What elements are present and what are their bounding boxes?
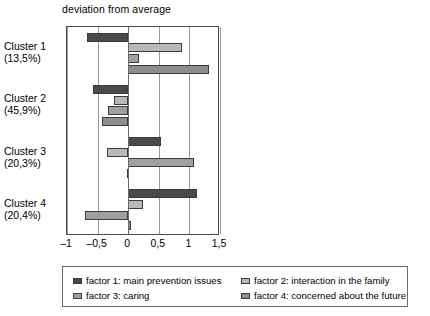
category-label: Cluster 1(13,5%) [4,40,46,64]
category-label-share: (45,9%) [4,104,46,116]
category-label-name: Cluster 2 [4,92,46,104]
chart-root: deviation from average Cluster 1(13,5%)C… [0,0,430,316]
category-label-name: Cluster 3 [4,145,46,157]
legend-item: factor 4: concerned about the future [241,290,406,301]
category-label-name: Cluster 1 [4,40,46,52]
legend-label: factor 4: concerned about the future [254,290,406,301]
bar [128,189,197,198]
legend-label: factor 3: caring [86,290,149,301]
legend-swatch-icon [241,293,250,299]
bar [128,65,209,74]
category-label-share: (20,3%) [4,157,46,169]
chart-title: deviation from average [62,3,171,15]
bar [107,148,128,157]
legend-item: factor 3: caring [73,290,149,301]
category-label: Cluster 2(45,9%) [4,92,46,116]
bar [128,200,143,209]
x-tick-label: 1 [185,237,191,249]
x-tick-label: –1 [60,237,72,249]
gridline [220,27,221,234]
legend-swatch-icon [73,293,82,299]
bar [108,106,128,115]
category-label-name: Cluster 4 [4,197,46,209]
x-tick-label: –0,5 [86,237,106,249]
category-label-share: (13,5%) [4,52,46,64]
x-tick-label: 0,5 [150,237,165,249]
legend-label: factor 2: interaction in the family [254,275,389,286]
bar [128,158,194,167]
zero-axis-line [128,27,129,234]
plot-area [66,26,219,235]
category-label: Cluster 4(20,4%) [4,197,46,221]
x-tick-label: 1,5 [212,237,227,249]
legend-item: factor 2: interaction in the family [241,275,389,286]
category-label-share: (20,4%) [4,209,46,221]
bar [93,85,128,94]
bar [85,211,128,220]
bar-group [67,27,218,234]
bar [128,137,160,146]
x-tick-label: 0 [124,237,130,249]
legend-box: factor 1: main prevention issuesfactor 2… [62,266,408,307]
legend-swatch-icon [241,278,250,284]
bar [114,96,129,105]
legend-item: factor 1: main prevention issues [73,275,221,286]
category-label: Cluster 3(20,3%) [4,145,46,169]
bar [128,54,138,63]
bar [87,33,129,42]
bar [102,117,128,126]
bar [128,43,182,52]
legend-swatch-icon [73,278,82,284]
legend-label: factor 1: main prevention issues [86,275,221,286]
